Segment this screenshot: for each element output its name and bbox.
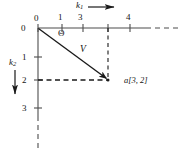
diagram-canvas bbox=[0, 0, 188, 153]
point-a-marker bbox=[107, 79, 110, 82]
k2-axis-label: k2 bbox=[9, 58, 16, 68]
point-a-label: a[3, 2] bbox=[124, 76, 148, 85]
k1-tick-label-4: 4 bbox=[126, 13, 131, 22]
k2-tick-label-1: 1 bbox=[22, 53, 27, 62]
k1-tick-label-1: 1 bbox=[58, 13, 63, 22]
vector-v-label: V bbox=[80, 45, 86, 55]
k1-tick-label-0: 0 bbox=[34, 14, 39, 23]
k2-tick-label-3: 3 bbox=[22, 104, 27, 113]
vector-v-line bbox=[39, 29, 107, 79]
k1-tick-label-3: 3 bbox=[78, 13, 83, 22]
vector-diagram: k1 k2 0 1 3 4 0 1 2 3 Θ V a[3, 2] bbox=[0, 0, 188, 153]
k2-tick-label-2: 2 bbox=[22, 76, 27, 85]
k2-tick-label-0: 0 bbox=[21, 24, 26, 33]
k1-axis-label: k1 bbox=[76, 1, 83, 11]
angle-theta-label: Θ bbox=[58, 29, 65, 38]
